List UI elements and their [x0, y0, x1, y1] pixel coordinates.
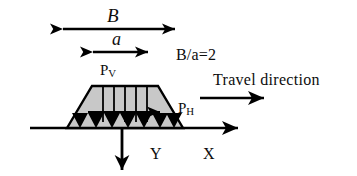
- figure-vector-graphics: [0, 0, 357, 176]
- travel-direction-label: Travel direction: [213, 72, 320, 88]
- pressure-distribution-figure: B a B/a=2 Travel direction PV PH Y X: [0, 0, 357, 176]
- horizontal-load-label: PH: [178, 101, 194, 117]
- axis-label-x: X: [203, 146, 215, 162]
- dimension-label-B: B: [107, 6, 119, 25]
- dimension-label-a: a: [112, 30, 121, 48]
- horizontal-load-subscript: H: [186, 105, 194, 117]
- vertical-load-subscript: V: [108, 67, 116, 79]
- vertical-load-label: PV: [100, 63, 116, 79]
- ratio-label: B/a=2: [176, 47, 216, 63]
- axis-label-y: Y: [150, 146, 162, 162]
